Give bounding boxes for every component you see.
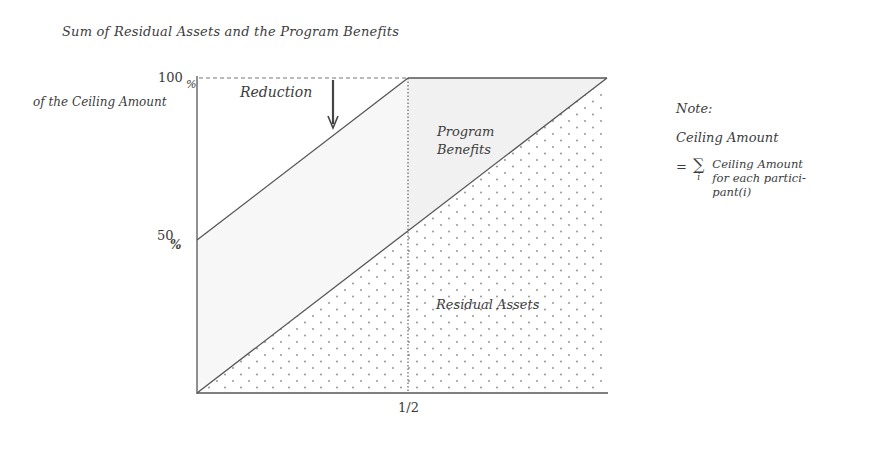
note-definition-line1: Ceiling Amount [712, 157, 806, 171]
note-term: Ceiling Amount [676, 128, 806, 147]
diagram-title: Sum of Residual Assets and the Program B… [62, 24, 399, 39]
equals-sign: = [676, 157, 687, 176]
program-benefits-label-line2: Benefits [437, 141, 494, 159]
sigma-symbol: ∑ i [693, 157, 704, 182]
x-tick-half: 1/2 [398, 400, 419, 415]
note-definition-line2: for each partici- [712, 171, 806, 185]
y-tick-50-unit: % [170, 238, 181, 252]
note-definition: Ceiling Amount for each partici- pant(i) [712, 157, 806, 199]
program-benefits-label: Program Benefits [437, 123, 494, 159]
program-benefits-label-line1: Program [437, 123, 494, 141]
note-equation: = ∑ i Ceiling Amount for each partici- p… [676, 157, 806, 199]
sigma-icon: ∑ [693, 157, 704, 173]
note-title: Note: [676, 99, 806, 118]
reduction-label: Reduction [240, 84, 312, 100]
diagram-plot [0, 0, 888, 462]
residual-assets-label: Residual Assets [436, 297, 539, 312]
note-box: Note: Ceiling Amount = ∑ i Ceiling Amoun… [676, 99, 806, 199]
y-tick-100: 100 [158, 70, 183, 85]
y-axis-label: of the Ceiling Amount [33, 95, 167, 109]
note-definition-line3: pant(i) [712, 185, 806, 199]
y-tick-100-unit: % [186, 78, 196, 91]
sigma-subscript: i [697, 173, 700, 182]
